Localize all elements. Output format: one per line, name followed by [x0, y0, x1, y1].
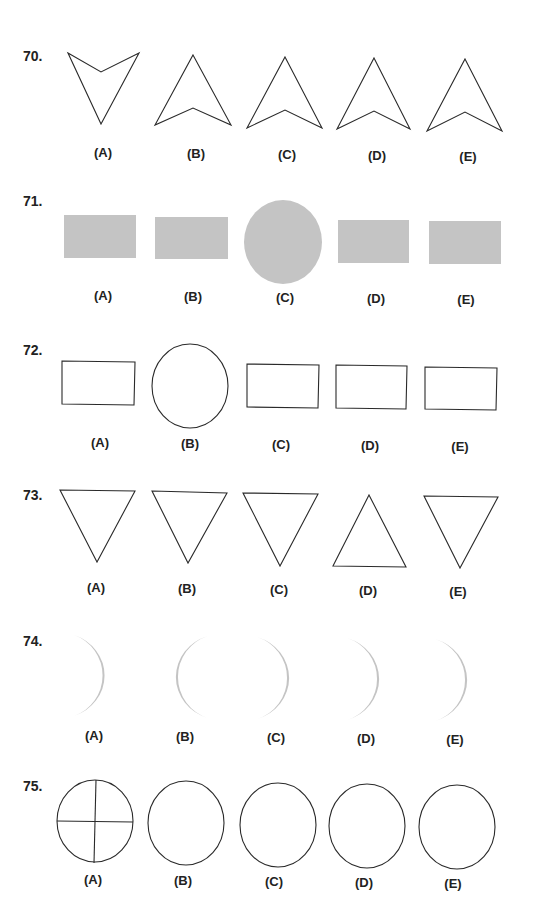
- q73-option-a-triangle-down-shape: [60, 490, 135, 562]
- q74-shapes: [74, 635, 467, 721]
- q73-option-b-triangle-down-shape: [152, 491, 227, 563]
- q72-option-a-label: (A): [91, 435, 109, 450]
- q72-option-e-rectangle-shape: [425, 367, 497, 410]
- q73-option-a-label: (A): [87, 580, 105, 595]
- question-number-71: 71.: [23, 193, 42, 209]
- q74-option-e-label: (E): [446, 732, 463, 747]
- q73-option-c-label: (C): [270, 582, 288, 597]
- q70-option-b-arrowhead-up-shape: [155, 55, 231, 125]
- q71-shapes: [64, 200, 501, 284]
- q75-option-d-circle-shape: [329, 784, 405, 868]
- q74-option-d-label: (D): [357, 731, 375, 746]
- q72-option-d-rectangle-shape: [336, 365, 407, 409]
- q74-option-a-crescent-shape: [74, 635, 105, 716]
- q72-option-d-label: (D): [361, 438, 379, 453]
- q73-option-d-label: (D): [359, 583, 377, 598]
- q71-option-c-filled-circle-shape: [244, 200, 322, 284]
- q74-option-c-label: (C): [267, 730, 285, 745]
- q73-option-c-triangle-down-shape: [243, 493, 318, 566]
- q71-option-e-filled-rectangle-shape: [429, 221, 501, 264]
- q70-option-a-label: (A): [94, 145, 112, 160]
- q74-option-b-crescent-shape: [176, 636, 208, 718]
- question-number-70: 70.: [23, 48, 42, 64]
- question-number-73: 73.: [23, 487, 42, 503]
- q72-option-e-label: (E): [451, 439, 468, 454]
- q72-shapes: [62, 344, 497, 428]
- q73-option-e-triangle-down-shape: [424, 496, 498, 568]
- q74-option-e-crescent-shape: [435, 639, 467, 721]
- question-number-75: 75.: [23, 778, 42, 794]
- question-number-74: 74.: [23, 633, 42, 649]
- q71-option-d-filled-rectangle-shape: [338, 220, 409, 263]
- question-number-72: 72.: [23, 342, 42, 358]
- q72-option-a-rectangle-shape: [62, 361, 135, 405]
- q71-option-a-filled-rectangle-shape: [64, 215, 136, 258]
- q75-option-e-label: (E): [444, 876, 461, 891]
- q72-option-c-rectangle-shape: [247, 364, 319, 408]
- q74-option-a-label: (A): [85, 728, 103, 743]
- q70-option-c-label: (C): [278, 147, 296, 162]
- q72-option-b-label: (B): [181, 436, 199, 451]
- q71-option-b-filled-rectangle-shape: [155, 217, 228, 259]
- q70-shapes: [68, 53, 502, 131]
- q75-option-b-label: (B): [174, 873, 192, 888]
- figure-canvas: [0, 0, 558, 921]
- q73-shapes: [60, 490, 498, 568]
- q71-option-c-label: (C): [276, 290, 294, 305]
- q74-option-d-crescent-shape: [347, 638, 379, 720]
- q75-option-c-circle-shape: [240, 783, 316, 867]
- q70-option-e-arrowhead-up-shape: [427, 59, 502, 131]
- q72-option-b-circle-shape: [152, 344, 228, 428]
- q75-option-a-circle-with-cross-shape: [57, 780, 133, 863]
- q75-option-d-label: (D): [355, 875, 373, 890]
- q75-option-b-circle-shape: [148, 781, 224, 865]
- q70-option-e-label: (E): [459, 149, 476, 164]
- q73-option-b-label: (B): [178, 581, 196, 596]
- q71-option-e-label: (E): [457, 292, 474, 307]
- q70-option-c-arrowhead-up-shape: [247, 57, 322, 128]
- q70-option-a-arrowhead-down-shape: [68, 53, 139, 124]
- q74-option-b-label: (B): [176, 729, 194, 744]
- q75-option-c-label: (C): [265, 874, 283, 889]
- q75-shapes: [57, 780, 495, 869]
- q75-option-e-circle-shape: [419, 785, 495, 869]
- q71-option-a-label: (A): [94, 288, 112, 303]
- q70-option-b-label: (B): [187, 146, 205, 161]
- q70-option-d-arrowhead-up-shape: [337, 58, 410, 129]
- q75-option-a-label: (A): [84, 872, 102, 887]
- q72-option-c-label: (C): [272, 437, 290, 452]
- q71-option-b-label: (B): [184, 289, 202, 304]
- q74-option-c-crescent-shape: [257, 637, 289, 719]
- q73-option-d-triangle-up-shape: [333, 495, 406, 567]
- q71-option-d-label: (D): [367, 291, 385, 306]
- q70-option-d-label: (D): [368, 148, 386, 163]
- q73-option-e-label: (E): [449, 584, 466, 599]
